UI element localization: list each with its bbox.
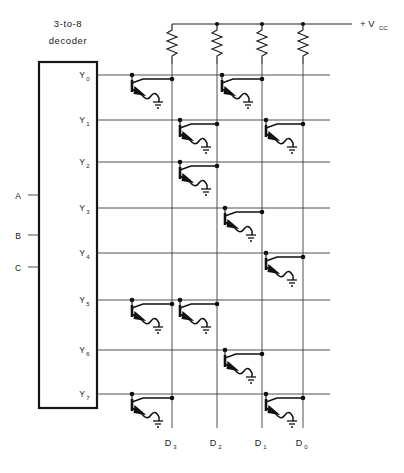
- emitter-arrow: [135, 314, 142, 320]
- transistor-cell-y3-d1: [223, 206, 265, 241]
- bit-sub-d2: 2: [218, 444, 222, 450]
- transistor-cell-y6-d1: [223, 348, 265, 383]
- ground-symbol: [287, 421, 297, 427]
- transistor-cell-y7-d0: [264, 392, 306, 427]
- output-sub-y0: 0: [86, 76, 90, 82]
- transistor-cell-y5-d2: [178, 298, 220, 333]
- ground-symbol: [153, 327, 163, 333]
- ground-symbol: [243, 102, 253, 108]
- emitter-arrow: [183, 176, 190, 182]
- emitter-arrow: [269, 267, 276, 273]
- ground-symbol: [153, 102, 163, 108]
- decoder-inputs: A B C: [15, 191, 39, 273]
- ground-symbol: [201, 147, 211, 153]
- vcc-sub: CC: [379, 25, 388, 31]
- input-label-a: A: [15, 191, 21, 201]
- transistor-collector: [132, 398, 172, 402]
- output-sub-y7: 7: [86, 395, 90, 401]
- output-sub-y4: 4: [86, 254, 90, 260]
- ground-symbol: [246, 235, 256, 241]
- emitter-arrow: [183, 314, 190, 320]
- emitter-arrow: [135, 89, 142, 95]
- transistor-collector: [266, 124, 303, 128]
- resistor-d0: [298, 24, 308, 64]
- ground-symbol: [201, 327, 211, 333]
- junction-dot: [215, 302, 220, 307]
- transistor-collector: [180, 304, 217, 308]
- transistor-cell-y5-d3: [130, 298, 175, 333]
- output-label-y3: Y: [79, 203, 85, 213]
- transistor-cell-y2-d2: [178, 160, 220, 195]
- transistor-collector: [222, 79, 262, 83]
- junction-dot: [260, 352, 265, 357]
- junction-dot: [215, 122, 220, 127]
- output-label-y0: Y: [79, 70, 85, 80]
- bit-line-labels: D 3 D 2 D 1 D 0: [165, 438, 309, 450]
- bit-label-d0: D: [296, 438, 303, 448]
- transistor-cell-y7-d3: [130, 392, 175, 427]
- transistor-cell-y4-d0: [264, 251, 306, 286]
- emitter-arrow: [225, 89, 232, 95]
- emitter-arrow: [228, 222, 235, 228]
- output-sub-y2: 2: [86, 163, 90, 169]
- decoder-output-labels: Y 0 Y 1 Y 2 Y 3 Y 4 Y 5 Y 6 Y 7: [79, 70, 90, 401]
- transistor-cell-y0-d3: [130, 73, 175, 108]
- bit-sub-d1: 1: [263, 444, 267, 450]
- junction-dot: [260, 77, 265, 82]
- output-label-y1: Y: [79, 115, 85, 125]
- transistor-cell-y0-d1: [220, 73, 265, 108]
- output-sub-y3: 3: [86, 209, 90, 215]
- output-sub-y1: 1: [86, 121, 90, 127]
- decoder-title-line2: decoder: [49, 35, 88, 46]
- emitter-arrow: [269, 408, 276, 414]
- pullup-resistors: [167, 24, 308, 64]
- transistor-collector: [180, 124, 217, 128]
- input-label-c: C: [15, 263, 21, 273]
- transistor-cell-y1-d2: [178, 118, 220, 153]
- input-label-b: B: [15, 231, 21, 241]
- supply-rail: + V CC: [172, 18, 388, 31]
- transistor-collector: [132, 304, 172, 308]
- output-sub-y5: 5: [86, 301, 90, 307]
- emitter-arrow: [135, 408, 142, 414]
- output-sub-y6: 6: [86, 351, 90, 357]
- output-label-y6: Y: [79, 345, 85, 355]
- ground-symbol: [246, 377, 256, 383]
- junction-dot: [301, 255, 306, 260]
- word-lines: [97, 75, 330, 394]
- output-label-y2: Y: [79, 157, 85, 167]
- resistor-d2: [212, 24, 222, 64]
- schematic-canvas: 3-to-8 decoder A B C Y 0 Y 1 Y 2 Y 3 Y 4…: [0, 0, 404, 473]
- junction-dot: [215, 164, 220, 169]
- bit-sub-d3: 3: [173, 444, 177, 450]
- ground-symbol: [153, 421, 163, 427]
- resistor-d3: [167, 24, 177, 64]
- circuit-schematic: 3-to-8 decoder A B C Y 0 Y 1 Y 2 Y 3 Y 4…: [0, 0, 404, 473]
- transistor-collector: [225, 354, 262, 358]
- junction-dot: [170, 77, 175, 82]
- ground-symbol: [287, 280, 297, 286]
- ground-symbol: [287, 147, 297, 153]
- bit-label-d2: D: [210, 438, 217, 448]
- vcc-label: + V: [360, 18, 375, 29]
- transistor-collector: [266, 257, 303, 261]
- junction-dot: [301, 396, 306, 401]
- junction-dot: [170, 396, 175, 401]
- resistor-d1: [257, 24, 267, 64]
- emitter-arrow: [183, 134, 190, 140]
- decoder-title-line1: 3-to-8: [54, 18, 82, 29]
- transistor-collector: [225, 212, 262, 216]
- transistor-collector: [132, 79, 172, 83]
- transistor-collector: [266, 398, 303, 402]
- output-label-y4: Y: [79, 248, 85, 258]
- transistor-cell-y1-d0: [264, 118, 306, 153]
- transistor-collector: [180, 166, 217, 170]
- junction-dot: [170, 302, 175, 307]
- ground-symbol: [201, 189, 211, 195]
- junction-dot: [301, 122, 306, 127]
- output-label-y7: Y: [79, 389, 85, 399]
- bit-sub-d0: 0: [304, 444, 308, 450]
- emitter-arrow: [269, 134, 276, 140]
- bit-label-d3: D: [165, 438, 172, 448]
- output-label-y5: Y: [79, 295, 85, 305]
